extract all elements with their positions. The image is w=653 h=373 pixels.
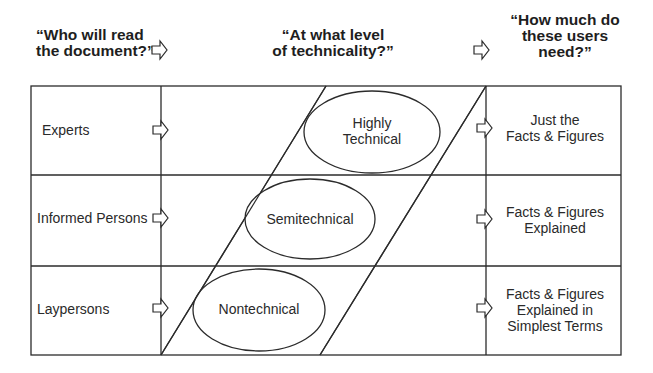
need-line: Just the	[490, 112, 620, 128]
block-arrow-right-icon	[474, 41, 489, 59]
reader-experts: Experts	[42, 122, 89, 138]
need-facts-explained: Facts & Figures Explained	[490, 204, 620, 236]
block-arrow-right-icon	[153, 209, 168, 227]
level-highly-technical: Highly Technical	[322, 115, 422, 147]
reader-laypersons: Laypersons	[37, 301, 109, 317]
need-line: Facts & Figures	[490, 128, 620, 144]
reader-informed-persons: Informed Persons	[37, 210, 148, 226]
need-just-facts: Just the Facts & Figures	[490, 112, 620, 144]
block-arrow-right-icon	[153, 299, 168, 317]
need-line: Simplest Terms	[490, 318, 620, 334]
need-line: Explained	[490, 220, 620, 236]
level-nontechnical: Nontechnical	[204, 301, 314, 317]
block-arrow-right-icon	[152, 41, 167, 59]
need-line: Facts & Figures	[490, 286, 620, 302]
level-line: Semitechnical	[255, 211, 365, 227]
level-line: Technical	[322, 131, 422, 147]
level-line: Highly	[322, 115, 422, 131]
need-line: Explained in	[490, 302, 620, 318]
level-semitechnical: Semitechnical	[255, 211, 365, 227]
level-line: Nontechnical	[204, 301, 314, 317]
block-arrow-right-icon	[153, 121, 168, 139]
need-line: Facts & Figures	[490, 204, 620, 220]
need-simplest-terms: Facts & Figures Explained in Simplest Te…	[490, 286, 620, 334]
